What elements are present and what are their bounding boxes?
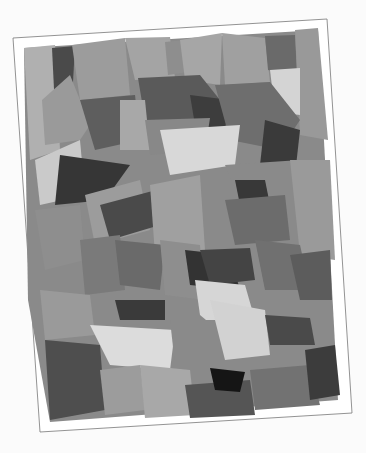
collage-artwork [0, 0, 366, 453]
artwork-canvas [0, 0, 366, 453]
collage-pieces [24, 28, 340, 422]
